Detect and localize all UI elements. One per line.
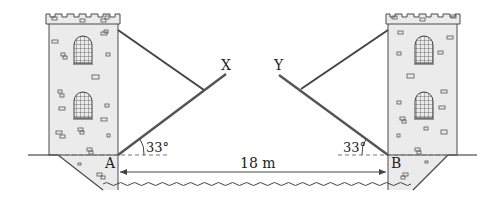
window-upper [73,36,93,64]
water-surface [103,183,411,186]
window-lower-right [414,92,434,119]
label-span: 18 m [240,155,276,171]
label-angle-left: 33° [146,140,169,155]
label-a: A [104,155,116,171]
cable-right [301,30,388,89]
label-angle-right: 33° [343,140,366,155]
bridge-arm-ax [118,74,226,155]
drawbridge-diagram: X Y A B 33° 33° 18 m [0,0,501,202]
label-x: X [221,57,231,73]
bridge-arm-by [279,75,388,155]
cable-left [118,30,204,90]
label-b: B [391,155,401,171]
label-y: Y [273,57,284,73]
window-upper-right [414,36,434,64]
angle-arc-left [140,139,144,155]
window-lower [73,92,93,119]
